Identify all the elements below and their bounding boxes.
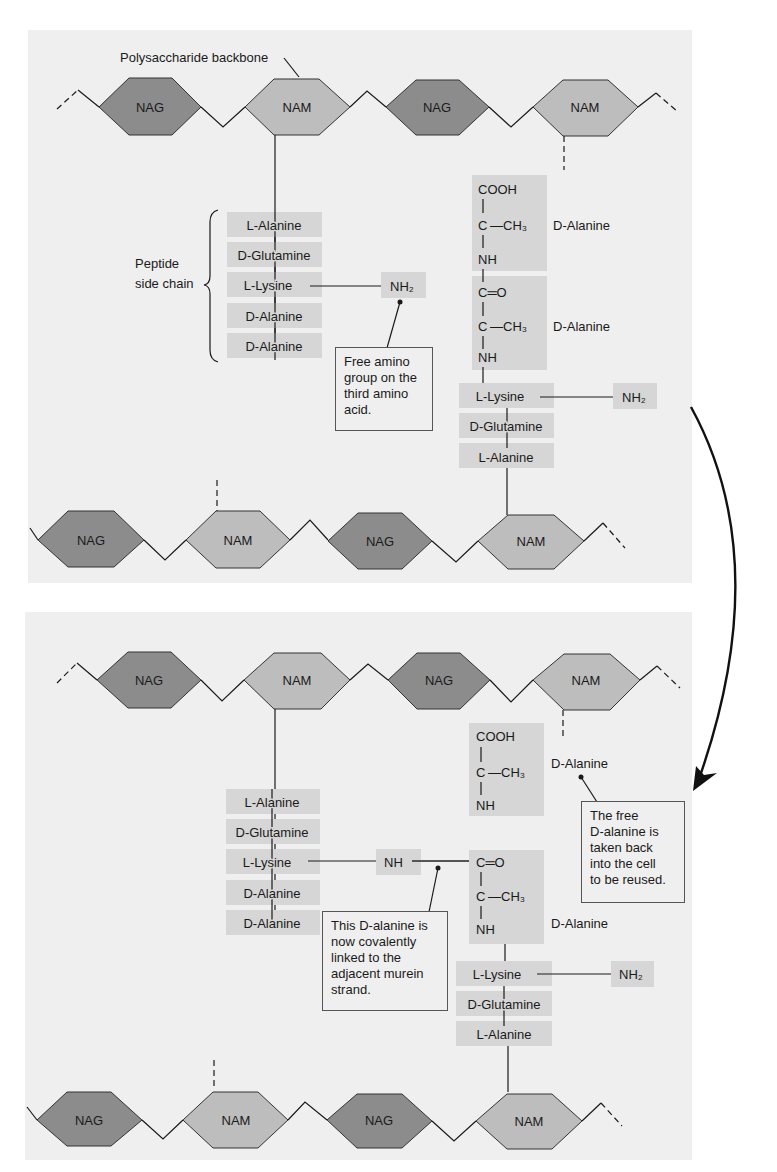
svg-text:NH: NH bbox=[478, 252, 497, 267]
nh2-label: NH₂ bbox=[390, 279, 414, 294]
svg-text:C: C bbox=[478, 218, 487, 233]
svg-text:D-Alanine: D-Alanine bbox=[245, 339, 302, 354]
bottom-upper-hexagons: NAG NAM NAG NAM bbox=[97, 652, 640, 710]
svg-text:C: C bbox=[476, 765, 485, 780]
svg-text:D-Alanine: D-Alanine bbox=[245, 309, 302, 324]
svg-text:NAM: NAM bbox=[224, 533, 253, 548]
svg-text:L-Lysine: L-Lysine bbox=[476, 389, 525, 404]
svg-text:NH: NH bbox=[476, 798, 495, 813]
svg-text:—CH₃: —CH₃ bbox=[488, 889, 525, 904]
free-d-alanine-callout: The free D-alanine is taken back into th… bbox=[581, 801, 685, 903]
svg-text:—CH₃: —CH₃ bbox=[490, 319, 527, 334]
svg-text:NAM: NAM bbox=[222, 1113, 251, 1128]
transition-arrow bbox=[691, 407, 735, 776]
svg-text:NAG: NAG bbox=[135, 673, 163, 688]
linked-d-alanine-label: D-Alanine bbox=[551, 916, 608, 931]
svg-text:L-Lysine: L-Lysine bbox=[473, 967, 522, 982]
nh2-label-right: NH₂ bbox=[619, 967, 643, 982]
svg-text:D-Glutamine: D-Glutamine bbox=[238, 248, 311, 263]
svg-text:—CH₃: —CH₃ bbox=[488, 765, 525, 780]
svg-text:D-Glutamine: D-Glutamine bbox=[468, 997, 541, 1012]
svg-text:NAM: NAM bbox=[283, 673, 312, 688]
backbone-label: Polysaccharide backbone bbox=[120, 50, 268, 65]
svg-text:NAM: NAM bbox=[283, 100, 312, 115]
bottom-lower-hexagons: NAG NAM NAG NAM bbox=[37, 1092, 582, 1149]
svg-text:NAG: NAG bbox=[77, 533, 105, 548]
svg-text:C═O: C═O bbox=[476, 855, 505, 870]
svg-text:NAG: NAG bbox=[366, 534, 394, 549]
svg-text:C: C bbox=[476, 889, 485, 904]
arrowhead-icon bbox=[693, 766, 717, 791]
svg-text:NAG: NAG bbox=[425, 673, 453, 688]
free-d-alanine: COOH C —CH₃ NH bbox=[469, 723, 544, 816]
brace bbox=[204, 210, 218, 362]
svg-text:L-Lysine: L-Lysine bbox=[243, 855, 292, 870]
free-amino-callout: Free amino group on the third amino acid… bbox=[335, 347, 433, 431]
svg-text:NH: NH bbox=[478, 350, 497, 365]
backbone-pointer bbox=[284, 58, 299, 77]
d-alanine-label-1: D-Alanine bbox=[553, 218, 610, 233]
svg-text:NAM: NAM bbox=[515, 1114, 544, 1129]
svg-text:NAM: NAM bbox=[517, 534, 546, 549]
svg-text:NAG: NAG bbox=[136, 100, 164, 115]
svg-text:C═O: C═O bbox=[478, 285, 507, 300]
svg-text:L-Alanine: L-Alanine bbox=[245, 795, 300, 810]
top-left-peptide: L-Alanine D-Glutamine L-Lysine D-Alanine… bbox=[227, 212, 322, 358]
svg-text:D-Glutamine: D-Glutamine bbox=[236, 825, 309, 840]
svg-text:D-Alanine: D-Alanine bbox=[243, 886, 300, 901]
svg-text:D-Glutamine: D-Glutamine bbox=[470, 419, 543, 434]
linked-d-alanine-callout: This D-alanine is now covalently linked … bbox=[322, 911, 448, 1011]
svg-text:L-Lysine: L-Lysine bbox=[244, 278, 293, 293]
linked-d-alanine: C═O C —CH₃ NH bbox=[469, 850, 544, 961]
svg-text:L-Alanine: L-Alanine bbox=[479, 450, 534, 465]
svg-text:NAM: NAM bbox=[572, 673, 601, 688]
svg-text:C: C bbox=[478, 319, 487, 334]
svg-text:COOH: COOH bbox=[476, 729, 515, 744]
bottom-left-peptide: L-Alanine D-Glutamine L-Lysine D-Alanine… bbox=[226, 789, 320, 935]
svg-text:COOH: COOH bbox=[478, 182, 517, 197]
top-lower-hexagons: NAG NAM NAG NAM bbox=[38, 511, 584, 569]
svg-text:NAG: NAG bbox=[365, 1113, 393, 1128]
svg-text:L-Alanine: L-Alanine bbox=[247, 218, 302, 233]
nh2-label-right: NH₂ bbox=[622, 390, 646, 405]
svg-text:NAG: NAG bbox=[75, 1113, 103, 1128]
nh-label: NH bbox=[384, 855, 403, 870]
callout-pointer bbox=[387, 302, 400, 348]
svg-text:NAG: NAG bbox=[423, 100, 451, 115]
side-chain-label-2: side chain bbox=[135, 276, 194, 291]
side-chain-label-1: Peptide bbox=[135, 256, 179, 271]
svg-text:D-Alanine: D-Alanine bbox=[243, 916, 300, 931]
top-right-chem: COOH C —CH₃ NH C═O C —CH₃ NH bbox=[472, 175, 547, 383]
svg-text:NH: NH bbox=[476, 922, 495, 937]
d-alanine-label-2: D-Alanine bbox=[553, 319, 610, 334]
free-d-alanine-label: D-Alanine bbox=[551, 756, 608, 771]
bottom-right-peptide: L-Lysine D-Glutamine L-Alanine bbox=[456, 961, 552, 1092]
top-upper-hexagons: NAG NAM NAG NAM bbox=[99, 78, 638, 136]
svg-text:NAM: NAM bbox=[571, 100, 600, 115]
svg-text:—CH₃: —CH₃ bbox=[490, 218, 527, 233]
top-right-peptide: L-Lysine D-Glutamine L-Alanine bbox=[459, 383, 554, 515]
callout-pointer bbox=[429, 868, 438, 912]
callout-pointer bbox=[581, 777, 597, 802]
svg-text:L-Alanine: L-Alanine bbox=[477, 1027, 532, 1042]
